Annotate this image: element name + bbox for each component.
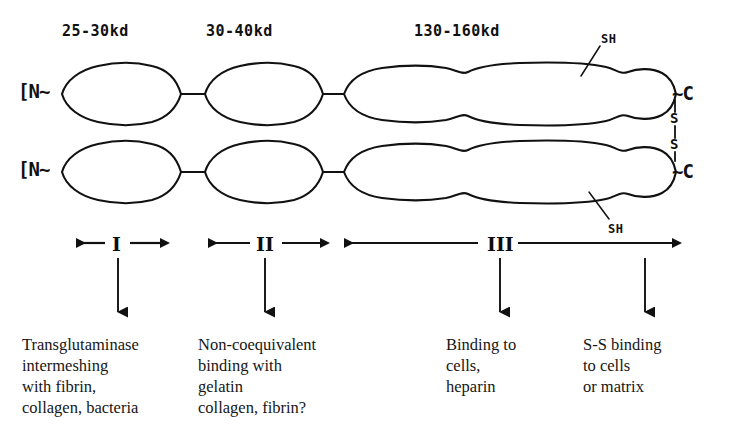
caption-domain-III: Binding to cells, heparin: [446, 334, 516, 397]
sh-leader-lower: [589, 192, 609, 219]
lower-c-terminus-label: ~C: [672, 160, 693, 182]
caption-domain-I: Transglutaminase intermeshing with fibri…: [22, 334, 139, 418]
disulfide-sulfur-lower: S: [670, 136, 678, 152]
mass-label-domain-III: 130-160kd: [414, 22, 500, 40]
lower-chain: [62, 141, 676, 204]
mass-label-domain-II: 30-40kd: [206, 22, 273, 40]
mass-label-domain-I: 25-30kd: [62, 22, 129, 40]
lower-n-terminus-label: [N~: [18, 158, 49, 180]
domain-numeral-I: I: [112, 233, 121, 255]
domain-numeral-III: III: [487, 233, 514, 255]
sh-label-upper: SH: [601, 32, 616, 46]
lower-domain-III-lobe: [344, 141, 676, 204]
domain-numeral-II: II: [256, 233, 274, 255]
upper-domain-III-lobe: [344, 63, 676, 126]
caption-disulfide-binding: S-S binding to cells or matrix: [583, 334, 661, 397]
sh-label-lower: SH: [608, 222, 623, 236]
upper-domain-II-lobe: [205, 63, 323, 125]
disulfide-sulfur-upper: S: [670, 110, 678, 126]
lower-domain-I-lobe: [62, 141, 181, 203]
lower-domain-II-lobe: [205, 141, 323, 203]
upper-c-terminus-label: ~C: [672, 82, 693, 104]
sh-leader-upper: [581, 46, 600, 76]
caption-domain-II: Non-coequivalent binding with gelatin co…: [198, 334, 316, 418]
upper-n-terminus-label: [N~: [18, 80, 49, 102]
sh-leader-lines: [581, 46, 609, 219]
fibronectin-domain-diagram: 25-30kd 30-40kd 130-160kd [N~ [N~ ~C ~C …: [0, 0, 729, 441]
callout-arrows: [118, 258, 645, 312]
upper-domain-I-lobe: [62, 63, 181, 125]
